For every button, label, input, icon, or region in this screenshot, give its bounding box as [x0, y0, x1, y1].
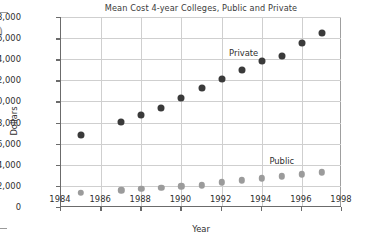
data-point-private [298, 39, 305, 46]
y-tick-mark [56, 165, 60, 166]
data-point-private [318, 30, 325, 37]
data-point-public [319, 169, 325, 175]
x-tick-label: 1998 [330, 194, 351, 204]
gridline-horizontal [61, 165, 341, 166]
y-tick-label: 18,000 [0, 12, 21, 22]
x-tick-mark [221, 207, 222, 211]
y-tick-mark [56, 17, 60, 18]
gridline-vertical [101, 17, 102, 206]
x-tick-label: 1986 [89, 194, 110, 204]
plot-area: PrivatePublic [60, 17, 341, 207]
data-point-private [118, 118, 125, 125]
data-point-public [78, 190, 84, 196]
y-tick-label: 4,000 [0, 160, 21, 170]
y-tick-mark [56, 144, 60, 145]
gridline-horizontal [61, 144, 341, 145]
x-tick-mark [60, 207, 61, 211]
gridline-vertical [181, 17, 182, 206]
y-tick-mark [56, 38, 60, 39]
plot-frame-right [340, 17, 341, 206]
gridline-horizontal [61, 123, 341, 124]
y-tick-mark [56, 80, 60, 81]
series-label-public: Public [269, 156, 294, 166]
chart-page: ) Mean Cost 4-year Colleges, Public and … [0, 0, 366, 242]
y-tick-label: 6,000 [0, 139, 21, 149]
data-point-private [78, 132, 85, 139]
data-point-private [178, 95, 185, 102]
x-tick-mark [100, 207, 101, 211]
x-axis-label: Year [192, 224, 210, 234]
gridline-horizontal [61, 17, 341, 18]
data-point-public [118, 187, 124, 193]
data-point-public [238, 177, 244, 183]
y-tick-mark [56, 123, 60, 124]
data-point-public [178, 183, 184, 189]
gridline-horizontal [61, 80, 341, 81]
data-point-private [198, 84, 205, 91]
y-tick-label: 8,000 [0, 118, 21, 128]
x-tick-mark [140, 207, 141, 211]
x-tick-label: 1984 [49, 194, 70, 204]
data-point-private [158, 104, 165, 111]
gridline-horizontal [61, 59, 341, 60]
y-tick-mark [56, 59, 60, 60]
y-tick-label: 0 [0, 202, 21, 212]
gridline-horizontal [61, 101, 341, 102]
data-point-public [299, 171, 305, 177]
data-point-private [258, 57, 265, 64]
data-point-public [218, 179, 224, 185]
data-point-public [259, 175, 265, 181]
x-tick-label: 1990 [170, 194, 191, 204]
y-tick-label: 14,000 [0, 54, 21, 64]
data-point-public [198, 182, 204, 188]
data-point-private [138, 112, 145, 119]
data-point-public [158, 185, 164, 191]
x-tick-label: 1996 [290, 194, 311, 204]
series-label-private: Private [229, 48, 258, 58]
x-tick-label: 1988 [130, 194, 151, 204]
chart-title: Mean Cost 4-year Colleges, Public and Pr… [60, 3, 342, 13]
y-tick-label: 2,000 [0, 181, 21, 191]
x-tick-mark [261, 207, 262, 211]
y-tick-label: 10,000 [0, 96, 21, 106]
x-tick-mark [341, 207, 342, 211]
y-tick-mark [56, 186, 60, 187]
page-edge-mark-bottom [0, 228, 7, 229]
data-point-private [238, 66, 245, 73]
y-tick-label: 12,000 [0, 75, 21, 85]
data-point-public [138, 186, 144, 192]
data-point-private [218, 76, 225, 83]
gridline-vertical [222, 17, 223, 206]
x-tick-label: 1992 [210, 194, 231, 204]
data-point-private [278, 53, 285, 60]
x-tick-mark [301, 207, 302, 211]
x-tick-mark [180, 207, 181, 211]
data-point-public [279, 173, 285, 179]
y-tick-mark [56, 101, 60, 102]
x-tick-label: 1994 [250, 194, 271, 204]
y-tick-label: 16,000 [0, 33, 21, 43]
